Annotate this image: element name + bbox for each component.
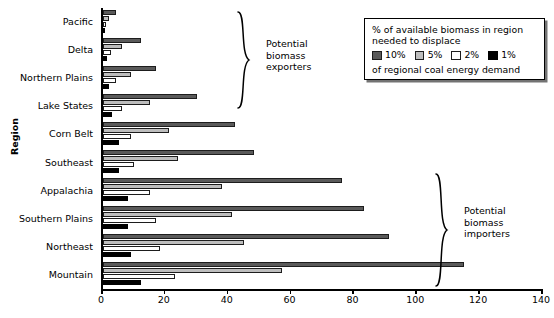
y-label-northeast: Northeast [0,241,93,252]
bar-group-corn-belt [103,120,543,148]
legend-item-10: 10% [372,50,406,60]
bar-mountain-5pct [103,268,282,273]
bar-pacific-5pct [103,16,109,21]
bar-delta-10pct [103,38,141,43]
bar-corn-belt-1pct [103,140,119,145]
bar-lake-states-1pct [103,112,112,117]
bar-mountain-10pct [103,262,464,267]
legend-swatch-5-icon [415,51,425,61]
bar-northeast-2pct [103,246,160,251]
exporters-line-3: exporters [266,61,356,73]
bar-group-mountain [103,261,543,289]
bar-pacific-10pct [103,10,116,15]
y-axis-tick-labels: PacificDeltaNorthern PlainsLake StatesCo… [0,8,97,289]
legend-item-1: 1% [488,50,516,60]
legend-item-2: 2% [451,50,479,60]
bar-southeast-5pct [103,156,178,161]
biomass-coal-displacement-bar-chart: Region PacificDeltaNorthern PlainsLake S… [0,0,554,318]
y-label-pacific: Pacific [0,16,93,27]
bar-pacific-2pct [103,22,106,27]
bar-southeast-1pct [103,168,119,173]
x-label-20: 20 [158,294,170,306]
bar-southern-plains-2pct [103,218,156,223]
y-label-mountain: Mountain [0,269,93,280]
bar-northeast-10pct [103,234,389,239]
y-label-southeast: Southeast [0,157,93,168]
bar-group-lake-states [103,92,543,120]
bar-group-southeast [103,148,543,176]
legend: % of available biomass in region needed … [364,18,545,80]
y-label-appalachia: Appalachia [0,185,93,196]
exporters-annotation: Potential biomass exporters [266,38,356,73]
x-label-100: 100 [406,294,424,306]
bar-southern-plains-1pct [103,224,128,229]
bar-appalachia-10pct [103,178,342,183]
bar-northern-plains-1pct [103,84,109,89]
x-label-0: 0 [98,294,104,306]
legend-label-1: 1% [501,50,516,60]
legend-label-5: 5% [428,50,443,60]
bar-delta-2pct [103,50,111,55]
exporters-line-1: Potential [266,38,356,50]
bar-southeast-2pct [103,162,134,167]
y-label-delta: Delta [0,44,93,55]
bar-southern-plains-10pct [103,206,364,211]
bar-lake-states-5pct [103,100,150,105]
bar-mountain-1pct [103,280,141,285]
legend-item-5: 5% [415,50,443,60]
bar-northern-plains-10pct [103,66,156,71]
legend-swatch-1-icon [488,51,498,61]
exporters-brace-icon [236,10,264,110]
legend-line-2: needed to displace [372,35,537,46]
bar-corn-belt-2pct [103,134,131,139]
y-label-southern-plains: Southern Plains [0,213,93,224]
bar-corn-belt-5pct [103,128,169,133]
bar-mountain-2pct [103,274,175,279]
legend-label-10: 10% [385,50,406,60]
bar-appalachia-5pct [103,184,222,189]
x-label-120: 120 [469,294,487,306]
legend-line-1: % of available biomass in region [372,24,537,35]
legend-label-2: 2% [464,50,479,60]
x-label-60: 60 [284,294,296,306]
importers-line-2: biomass [464,217,550,229]
exporters-line-2: biomass [266,50,356,62]
y-label-northern-plains: Northern Plains [0,72,93,83]
x-label-140: 140 [532,294,550,306]
bar-northern-plains-5pct [103,72,131,77]
legend-swatch-2-icon [451,51,461,61]
bar-delta-5pct [103,44,122,49]
bar-corn-belt-10pct [103,122,235,127]
importers-line-1: Potential [464,205,550,217]
legend-keys: 10% 5% 2% 1% [372,50,537,60]
legend-line-3: of regional coal energy demand [372,64,537,75]
importers-line-3: importers [464,228,550,240]
bar-northeast-5pct [103,240,244,245]
bar-southeast-10pct [103,150,254,155]
x-label-80: 80 [346,294,358,306]
bar-appalachia-2pct [103,190,150,195]
legend-swatch-10-icon [372,51,382,61]
importers-annotation: Potential biomass importers [464,205,550,240]
bar-northern-plains-2pct [103,78,116,83]
bar-lake-states-2pct [103,106,122,111]
bar-lake-states-10pct [103,94,197,99]
bar-southern-plains-5pct [103,212,232,217]
bar-group-appalachia [103,177,543,205]
bar-delta-1pct [103,56,107,61]
x-axis-tick-labels: 020406080100120140 [101,294,543,310]
importers-brace-icon [434,172,462,288]
bar-northeast-1pct [103,252,131,257]
x-label-40: 40 [221,294,233,306]
y-label-corn-belt: Corn Belt [0,128,93,139]
y-label-lake-states: Lake States [0,100,93,111]
bar-appalachia-1pct [103,196,128,201]
bar-pacific-1pct [103,28,105,33]
